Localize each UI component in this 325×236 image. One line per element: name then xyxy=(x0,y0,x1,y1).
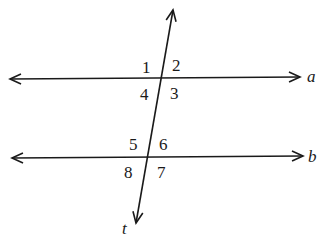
angle-7-label: 7 xyxy=(157,163,166,182)
angle-6-label: 6 xyxy=(159,135,168,154)
angle-2-label: 2 xyxy=(172,56,181,75)
angle-8-label: 8 xyxy=(124,163,133,182)
line-a-label: a xyxy=(307,67,316,86)
angle-5-label: 5 xyxy=(129,135,138,154)
line-a xyxy=(10,77,300,79)
angle-3-label: 3 xyxy=(170,84,179,103)
transversal-t-label: t xyxy=(122,219,128,236)
diagram-canvas: a b t 1 2 3 4 5 6 7 8 xyxy=(0,0,325,236)
line-b xyxy=(12,156,303,158)
line-b-label: b xyxy=(308,147,317,166)
transversal-t xyxy=(136,10,173,223)
angle-4-label: 4 xyxy=(140,85,149,104)
angle-1-label: 1 xyxy=(142,58,151,77)
